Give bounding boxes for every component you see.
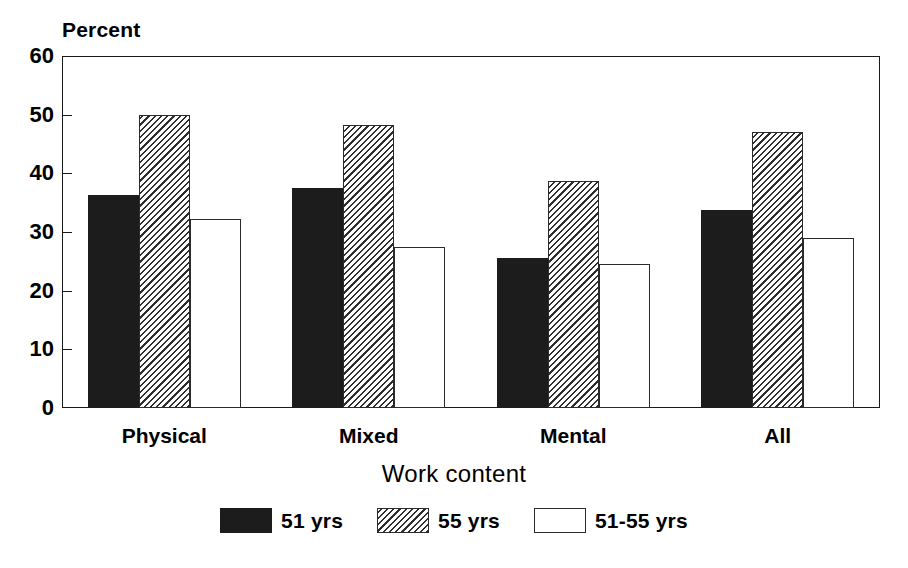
legend-swatch-hatch — [377, 508, 429, 533]
y-tick-mark — [62, 173, 72, 174]
bar-physical-5155yrs — [190, 219, 241, 408]
y-tick-label: 30 — [8, 221, 54, 243]
y-tick-label: 50 — [8, 104, 54, 126]
legend-swatch-open — [534, 508, 586, 533]
y-tick-mark — [62, 349, 72, 350]
legend-item: 55 yrs — [377, 508, 500, 533]
bar-all-55yrs — [752, 132, 803, 408]
bar-chart: Percent 0102030405060 Work content 51 yr… — [0, 0, 908, 568]
y-tick-mark — [62, 115, 72, 116]
legend-label: 51 yrs — [281, 509, 343, 533]
x-axis-title: Work content — [0, 460, 908, 488]
bar-mixed-5155yrs — [394, 247, 445, 408]
bar-physical-55yrs — [139, 115, 190, 408]
y-axis-title: Percent — [62, 18, 140, 42]
y-tick-label: 60 — [8, 45, 54, 67]
y-tick-mark — [62, 291, 72, 292]
bars-layer — [62, 56, 880, 408]
legend-item: 51 yrs — [220, 508, 343, 533]
legend-label: 51-55 yrs — [595, 509, 688, 533]
bar-all-5155yrs — [803, 238, 854, 408]
legend-label: 55 yrs — [438, 509, 500, 533]
x-tick-label: Mixed — [339, 424, 399, 448]
bar-mixed-55yrs — [343, 125, 394, 408]
chart-legend: 51 yrs55 yrs51-55 yrs — [0, 508, 908, 533]
x-tick-label: Mental — [540, 424, 607, 448]
y-tick-label: 20 — [8, 280, 54, 302]
bar-all-51yrs — [701, 210, 752, 408]
legend-item: 51-55 yrs — [534, 508, 688, 533]
legend-swatch-solid — [220, 508, 272, 533]
bar-physical-51yrs — [88, 195, 139, 408]
y-tick-label: 40 — [8, 162, 54, 184]
y-tick-mark — [62, 232, 72, 233]
y-tick-label: 10 — [8, 338, 54, 360]
x-tick-label: All — [764, 424, 791, 448]
bar-mental-55yrs — [548, 181, 599, 408]
bar-mental-5155yrs — [599, 264, 650, 408]
bar-mixed-51yrs — [292, 188, 343, 408]
x-tick-label: Physical — [122, 424, 207, 448]
bar-mental-51yrs — [497, 258, 548, 408]
y-tick-label: 0 — [8, 397, 54, 419]
